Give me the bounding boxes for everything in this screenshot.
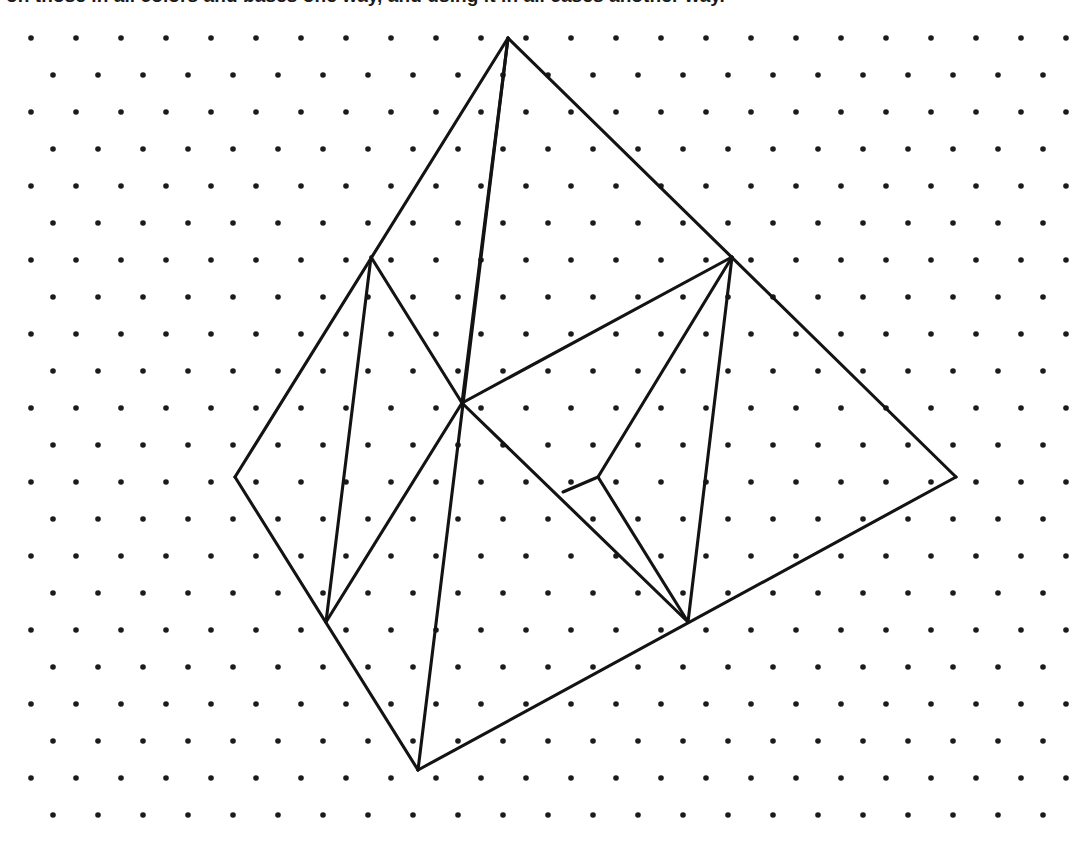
grid-dot xyxy=(905,146,911,152)
grid-dot xyxy=(748,775,754,781)
grid-dot xyxy=(1040,516,1046,522)
grid-dot xyxy=(163,405,169,411)
grid-dot xyxy=(883,183,889,189)
grid-dot xyxy=(388,775,394,781)
grid-dot xyxy=(680,516,686,522)
grid-dot xyxy=(545,146,551,152)
grid-dot xyxy=(815,590,821,596)
grid-dot xyxy=(793,775,799,781)
grid-dot xyxy=(658,775,664,781)
grid-dot xyxy=(545,368,551,374)
grid-dot xyxy=(770,590,776,596)
grid-dot xyxy=(28,479,34,485)
grid-dot xyxy=(208,183,214,189)
grid-dot xyxy=(73,183,79,189)
grid-dot xyxy=(928,479,934,485)
grid-dot xyxy=(118,257,124,263)
grid-dot xyxy=(523,405,529,411)
grid-dot xyxy=(860,738,866,744)
grid-dot xyxy=(298,109,304,115)
grid-dot xyxy=(928,257,934,263)
grid-dot xyxy=(478,331,484,337)
grid-dot xyxy=(680,294,686,300)
grid-dot xyxy=(1018,775,1024,781)
grid-dot xyxy=(928,627,934,633)
grid-dot xyxy=(163,331,169,337)
grid-dot xyxy=(1063,701,1069,707)
grid-dot xyxy=(185,146,191,152)
grid-dot xyxy=(343,775,349,781)
grid-dot xyxy=(973,701,979,707)
grid-dot xyxy=(748,183,754,189)
grid-dot xyxy=(568,775,574,781)
grid-dot xyxy=(1063,405,1069,411)
grid-dot xyxy=(208,109,214,115)
grid-dot xyxy=(163,553,169,559)
grid-dot xyxy=(140,738,146,744)
grid-dot xyxy=(725,220,731,226)
grid-dot xyxy=(275,738,281,744)
grid-dot xyxy=(725,516,731,522)
grid-dot xyxy=(815,220,821,226)
grid-dot xyxy=(343,627,349,633)
grid-dot xyxy=(635,72,641,78)
grid-dot xyxy=(500,664,506,670)
page-root: on those in all colors and bases one way… xyxy=(0,0,1087,842)
grid-dot xyxy=(680,738,686,744)
grid-dot xyxy=(590,738,596,744)
grid-dot xyxy=(590,368,596,374)
grid-dot xyxy=(950,738,956,744)
grid-dot xyxy=(523,183,529,189)
grid-dot xyxy=(613,109,619,115)
figure-segment-center-hub-to-inner-ur xyxy=(462,257,732,403)
grid-dot xyxy=(950,442,956,448)
grid-dot xyxy=(253,35,259,41)
grid-dot xyxy=(455,368,461,374)
grid-dot xyxy=(838,479,844,485)
grid-dot xyxy=(973,331,979,337)
grid-dot xyxy=(1040,146,1046,152)
grid-dot xyxy=(50,812,56,818)
grid-dot xyxy=(95,812,101,818)
grid-dot xyxy=(950,368,956,374)
grid-dot xyxy=(995,294,1001,300)
grid-dot xyxy=(185,294,191,300)
grid-dot xyxy=(50,516,56,522)
grid-dot xyxy=(140,590,146,596)
grid-dot xyxy=(73,405,79,411)
grid-dot xyxy=(163,479,169,485)
grid-dot xyxy=(928,331,934,337)
grid-dot xyxy=(568,109,574,115)
grid-dot xyxy=(860,664,866,670)
grid-dot xyxy=(95,72,101,78)
grid-dot xyxy=(433,109,439,115)
grid-dot xyxy=(478,701,484,707)
grid-dot xyxy=(500,220,506,226)
grid-dot xyxy=(73,701,79,707)
grid-dot xyxy=(905,590,911,596)
grid-dot xyxy=(365,72,371,78)
grid-dot xyxy=(275,442,281,448)
grid-dot xyxy=(343,257,349,263)
grid-dot xyxy=(118,35,124,41)
grid-dot xyxy=(613,701,619,707)
grid-dot xyxy=(455,738,461,744)
grid-dot xyxy=(1018,553,1024,559)
grid-dot xyxy=(883,109,889,115)
grid-dot xyxy=(590,516,596,522)
grid-dot xyxy=(545,664,551,670)
grid-dot xyxy=(703,627,709,633)
grid-dot xyxy=(883,479,889,485)
grid-dot xyxy=(320,442,326,448)
grid-dot xyxy=(320,146,326,152)
grid-dot xyxy=(343,553,349,559)
grid-dot xyxy=(860,368,866,374)
grid-dot xyxy=(635,664,641,670)
grid-dot xyxy=(73,627,79,633)
grid-dot xyxy=(838,701,844,707)
grid-dot xyxy=(275,72,281,78)
grid-dot xyxy=(320,294,326,300)
grid-dot xyxy=(298,405,304,411)
grid-dot xyxy=(253,479,259,485)
grid-dot xyxy=(1063,775,1069,781)
